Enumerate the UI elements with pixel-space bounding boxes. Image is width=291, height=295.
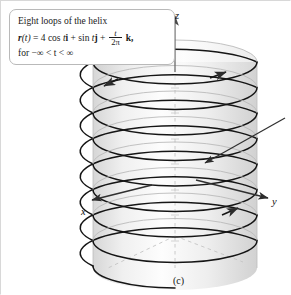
figure-caption: (c) bbox=[173, 275, 184, 286]
equation-fraction: t 2π bbox=[109, 29, 122, 47]
annotation-equation: r(t) = 4 cos ti + sin tj + t 2π k, bbox=[18, 29, 167, 47]
annotation-line-1: Eight loops of the helix bbox=[18, 15, 167, 28]
equation-i-hat: i bbox=[66, 33, 69, 43]
annotation-line-3: for −∞ < t < ∞ bbox=[18, 47, 167, 60]
equation-plus-frac: + bbox=[100, 33, 105, 43]
x-axis-label: x bbox=[81, 206, 86, 217]
y-axis-label: y bbox=[272, 196, 277, 207]
equation-parameter: (t) bbox=[22, 33, 31, 43]
fraction-denominator: 2π bbox=[109, 37, 122, 47]
equation-k-hat: k, bbox=[126, 33, 134, 43]
annotation-box: Eight loops of the helix r(t) = 4 cos ti… bbox=[9, 9, 175, 65]
z-axis-label: z bbox=[175, 10, 179, 21]
helix-figure: Eight loops of the helix r(t) = 4 cos ti… bbox=[0, 0, 291, 295]
fraction-numerator: t bbox=[109, 29, 122, 38]
equation-equals: = 4 cos bbox=[33, 33, 61, 43]
equation-plus-sin: + sin bbox=[71, 33, 90, 43]
equation-j-hat: j bbox=[94, 33, 97, 43]
